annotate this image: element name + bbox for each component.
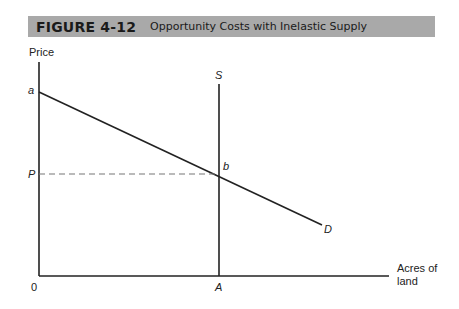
label-S: S <box>215 69 223 81</box>
x-axis-label-line1: Acres of <box>397 262 438 274</box>
y-axis-label: Price <box>29 46 54 58</box>
label-D: D <box>324 223 332 235</box>
chart-plot: Price a S P b D 0 A Acres of land <box>0 0 459 309</box>
demand-curve <box>39 92 322 225</box>
label-a: a <box>28 84 34 96</box>
x-axis-label-line2: land <box>397 275 418 287</box>
label-b: b <box>223 160 229 172</box>
label-A: A <box>214 281 222 293</box>
origin-label: 0 <box>31 281 37 293</box>
label-P: P <box>28 168 36 180</box>
